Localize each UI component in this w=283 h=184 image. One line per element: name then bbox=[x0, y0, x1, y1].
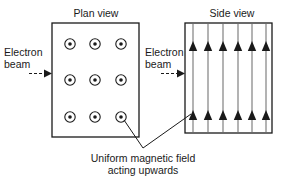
field-caption: Uniform magnetic field acting upwards bbox=[63, 152, 223, 176]
caption-leader-lines bbox=[124, 114, 191, 148]
field-up-arrow-icon bbox=[262, 41, 270, 51]
leader-to-plan-dot bbox=[124, 120, 143, 148]
field-up-arrow-icon bbox=[262, 110, 270, 120]
electron-beam-label-side: Electron beam bbox=[145, 46, 184, 70]
field-up-arrow-icon bbox=[189, 41, 197, 51]
field-up-arrow-icon bbox=[219, 41, 227, 51]
magnetic-field-diagram: Plan view Side view Electron beam Electr… bbox=[0, 0, 283, 184]
field-up-arrow-icon bbox=[204, 110, 212, 120]
side-view-title: Side view bbox=[192, 7, 272, 19]
field-caption-line1: Uniform magnetic field bbox=[63, 152, 223, 164]
electron-beam-label-plan: Electron beam bbox=[4, 46, 43, 70]
field-caption-line2: acting upwards bbox=[63, 164, 223, 176]
electron-beam-label-side-line2: beam bbox=[145, 58, 184, 70]
field-dot-icon bbox=[90, 75, 100, 85]
electron-beam-label-plan-line2: beam bbox=[4, 58, 43, 70]
side-field-arrowheads-lower bbox=[189, 110, 270, 120]
field-up-arrow-icon bbox=[204, 41, 212, 51]
field-dot-icon bbox=[116, 75, 126, 85]
side-field-arrowheads-upper bbox=[189, 41, 270, 51]
field-up-arrow-icon bbox=[248, 110, 256, 120]
electron-beam-arrow-side bbox=[161, 70, 185, 78]
field-dot-icon bbox=[65, 75, 75, 85]
electron-beam-label-side-line1: Electron bbox=[145, 46, 184, 58]
field-up-arrow-icon bbox=[219, 110, 227, 120]
field-dot-icon bbox=[116, 39, 126, 49]
leader-to-side-arrow bbox=[143, 114, 191, 148]
plan-view-title: Plan view bbox=[56, 7, 136, 19]
side-field-lines bbox=[193, 24, 266, 132]
field-dot-icon bbox=[65, 39, 75, 49]
field-up-arrow-icon bbox=[234, 41, 242, 51]
side-view-box bbox=[185, 23, 272, 133]
field-up-arrow-icon bbox=[234, 110, 242, 120]
electron-beam-label-plan-line1: Electron bbox=[4, 46, 43, 58]
field-up-arrow-icon bbox=[248, 41, 256, 51]
field-dot-icon bbox=[90, 39, 100, 49]
field-dot-icon bbox=[90, 112, 100, 122]
plan-field-symbols bbox=[65, 39, 126, 122]
field-dot-icon bbox=[65, 112, 75, 122]
electron-beam-arrow-plan bbox=[29, 70, 52, 78]
